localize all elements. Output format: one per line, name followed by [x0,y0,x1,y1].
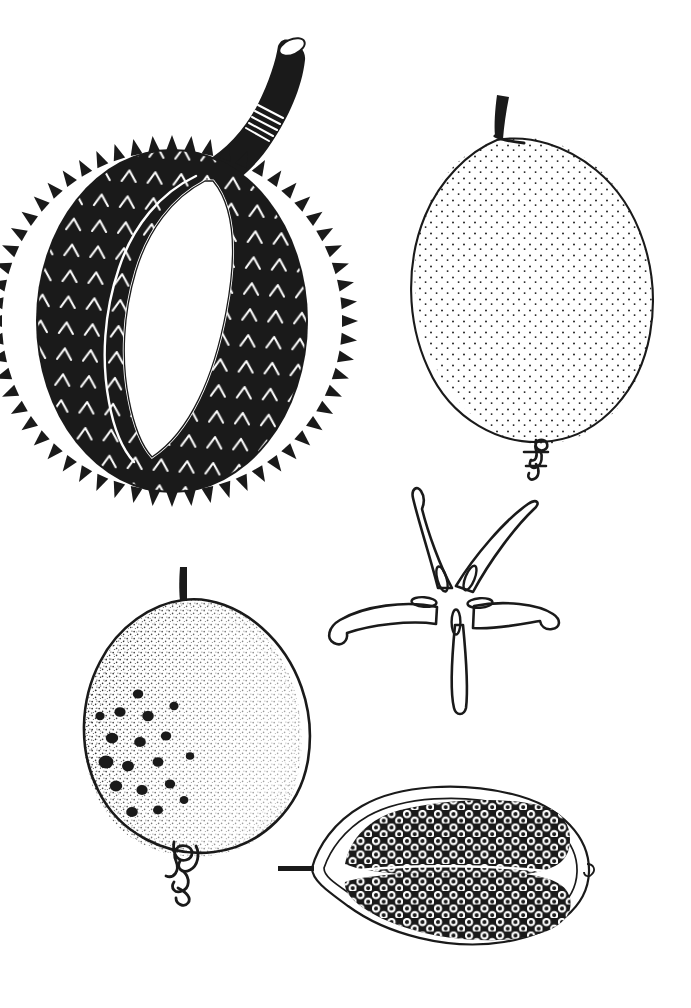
illustration-plate: Botanical line-art plate of durian fruit… [0,0,691,1008]
fruit-bl-stalk [179,567,187,601]
plate-canvas [0,0,691,1008]
section-stalk-stub [278,866,314,871]
